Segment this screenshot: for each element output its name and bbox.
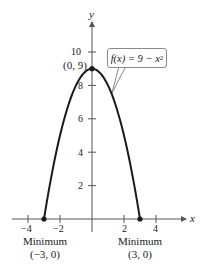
x-tick-label-neg2: −2 [53, 224, 64, 234]
y-tick-label-8: 8 [78, 81, 83, 91]
function-callout: f(x) = 9 − x2 [107, 48, 167, 68]
y-tick-label-2: 2 [78, 181, 83, 191]
right-minimum-caption: Minimum [115, 236, 165, 247]
function-exponent: 2 [160, 54, 164, 62]
x-axis-label: x [190, 213, 195, 224]
y-tick-label-4: 4 [78, 148, 83, 158]
y-tick-label-10: 10 [71, 47, 81, 57]
y-axis-label: y [89, 9, 94, 20]
function-label: f(x) = 9 − x [111, 53, 160, 64]
left-minimum-caption: Minimum [20, 236, 70, 247]
y-tick-label-6: 6 [78, 114, 83, 124]
vertex-label: (0, 9) [63, 60, 87, 71]
right-minimum-label: (3, 0) [115, 249, 165, 260]
x-tick-label-neg4: −4 [21, 224, 32, 234]
x-tick-label-4: 4 [153, 224, 158, 234]
callout-pointer [112, 66, 126, 93]
x-tick-label-2: 2 [122, 224, 127, 234]
left-minimum-label: (−3, 0) [20, 249, 70, 260]
